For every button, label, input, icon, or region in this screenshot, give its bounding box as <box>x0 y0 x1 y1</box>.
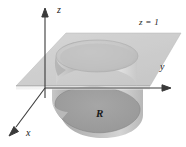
y-axis-label: y <box>160 62 164 72</box>
x-axis-label: x <box>26 128 30 138</box>
cylinder-top-inner-shadow <box>60 44 134 71</box>
z-axis-arrow <box>42 8 48 17</box>
y-axis-arrow <box>162 85 171 91</box>
region-label-R: R <box>96 108 103 119</box>
z-axis-label: z <box>57 5 61 15</box>
plane-equation-label: z = 1 <box>139 18 159 27</box>
x-axis-arrow <box>9 127 19 137</box>
x-axis-line <box>16 88 45 127</box>
math-figure-cardioid-cylinder: z y x R z = 1 <box>0 0 186 147</box>
